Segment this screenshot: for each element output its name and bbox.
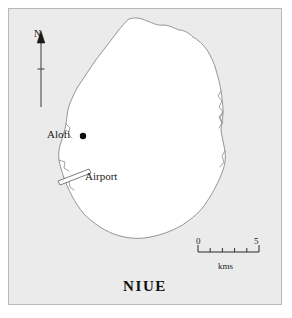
map-frame: N Alofi Airport 0 5 kms NIUE bbox=[8, 8, 282, 305]
scale-bar-min-label: 0 bbox=[196, 237, 201, 246]
island-landmass bbox=[59, 18, 226, 238]
alofi-settlement-marker bbox=[80, 133, 86, 139]
map-drawing-canvas bbox=[9, 9, 281, 304]
alofi-place-label: Alofi bbox=[47, 129, 70, 140]
niue-map-figure: N Alofi Airport 0 5 kms NIUE bbox=[0, 0, 292, 318]
north-arrow-label: N bbox=[34, 29, 41, 39]
scale-bar bbox=[198, 245, 259, 252]
airport-feature-label: Airport bbox=[85, 171, 117, 182]
scale-bar-max-label: 5 bbox=[254, 237, 259, 246]
scale-bar-units-label: kms bbox=[218, 262, 233, 271]
map-title: NIUE bbox=[9, 279, 281, 294]
north-arrow bbox=[37, 31, 45, 107]
